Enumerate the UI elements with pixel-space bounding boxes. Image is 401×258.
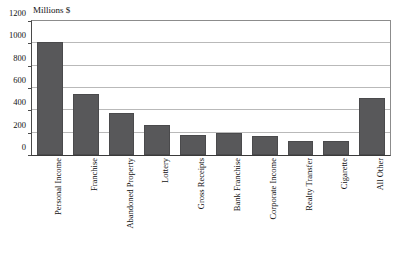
bar	[252, 136, 278, 155]
x-axis-label: Bank Franchise	[229, 158, 239, 211]
bar	[37, 42, 63, 155]
y-axis: 020040060080010001200	[0, 20, 31, 156]
x-axis-label-text: Bank Franchise	[232, 158, 242, 211]
y-tick-label-600: 600	[13, 76, 26, 85]
y-tick-label-800: 800	[13, 53, 26, 62]
x-axis-label: Cigarette	[336, 158, 346, 189]
x-axis-label-text: Realty Transfer	[304, 158, 314, 211]
bars-layer	[32, 21, 390, 155]
bar	[216, 133, 242, 155]
x-axis-label-text: Abandoned Property	[125, 158, 135, 229]
y-tick-label-0: 0	[22, 143, 26, 152]
bar	[73, 94, 99, 155]
bar	[109, 113, 135, 155]
bar	[180, 135, 206, 155]
y-tick-label-400: 400	[13, 98, 26, 107]
x-axis-label-text: Personal Income	[53, 158, 63, 215]
x-axis-label-text: Cigarette	[339, 158, 349, 189]
bar-chart-figure: Millions $ 020040060080010001200 Persona…	[0, 0, 401, 258]
x-axis-label-text: Gross Receipts	[196, 158, 206, 209]
x-axis-label: Franchise	[86, 158, 96, 191]
x-axis-label: All Other	[372, 158, 382, 190]
y-tick-label-1200: 1200	[9, 9, 26, 18]
y-axis-title: Millions $	[33, 5, 70, 16]
x-axis-label: Corporate Income	[265, 158, 275, 220]
bar	[323, 141, 349, 155]
y-tick-label-200: 200	[13, 120, 26, 129]
x-axis-label: Realty Transfer	[301, 158, 311, 211]
y-tick-label-1000: 1000	[9, 31, 26, 40]
x-axis-label: Gross Receipts	[193, 158, 203, 209]
x-axis-label-text: Corporate Income	[268, 158, 278, 220]
bar	[288, 141, 314, 155]
x-axis-label: Abandoned Property	[122, 158, 132, 229]
x-axis-labels: Personal IncomeFranchiseAbandoned Proper…	[32, 158, 390, 256]
x-axis-label: Lottery	[157, 158, 167, 183]
bar	[359, 98, 385, 155]
bar	[144, 125, 170, 155]
x-axis-label-text: Lottery	[160, 158, 170, 183]
x-axis-label-text: All Other	[375, 158, 385, 190]
x-axis-label-text: Franchise	[89, 158, 99, 191]
x-axis-label: Personal Income	[50, 158, 60, 215]
